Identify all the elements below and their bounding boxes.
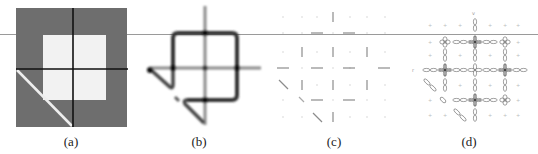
svg-text:v: v bbox=[472, 10, 475, 16]
caption-b: (b) bbox=[179, 134, 219, 150]
panel-a bbox=[0, 0, 135, 134]
svg-text:+: + bbox=[516, 112, 520, 118]
svg-text:+: + bbox=[503, 112, 507, 118]
svg-text:+: + bbox=[488, 52, 492, 58]
oriented-segment-grid bbox=[270, 0, 405, 134]
svg-text:+: + bbox=[516, 52, 520, 58]
caption-a: (a) bbox=[51, 134, 91, 150]
svg-text:+: + bbox=[428, 52, 432, 58]
caption-d: (d) bbox=[449, 134, 489, 150]
svg-text:r: r bbox=[412, 67, 415, 73]
svg-text:+: + bbox=[428, 112, 432, 118]
svg-text:+: + bbox=[458, 52, 462, 58]
svg-text:+: + bbox=[458, 22, 462, 28]
svg-text:+: + bbox=[516, 82, 520, 88]
svg-text:+: + bbox=[443, 22, 447, 28]
svg-text:+: + bbox=[428, 97, 432, 103]
orientation-glyph-grid: ++++++ ++ ++++ +++ ++ +++++ v r bbox=[400, 0, 538, 134]
svg-text:+: + bbox=[516, 22, 520, 28]
svg-text:+: + bbox=[503, 22, 507, 28]
svg-text:+: + bbox=[458, 82, 462, 88]
svg-text:+: + bbox=[443, 112, 447, 118]
svg-text:+: + bbox=[428, 39, 432, 45]
svg-text:+: + bbox=[488, 82, 492, 88]
blurred-response-map bbox=[147, 6, 261, 125]
svg-text:+: + bbox=[488, 22, 492, 28]
caption-c: (c) bbox=[314, 134, 354, 150]
svg-text:+: + bbox=[516, 97, 520, 103]
svg-text:+: + bbox=[428, 22, 432, 28]
svg-text:+: + bbox=[488, 112, 492, 118]
panel-b bbox=[135, 0, 270, 134]
svg-text:+: + bbox=[516, 39, 520, 45]
panel-d: ++++++ ++ ++++ +++ ++ +++++ v r bbox=[400, 0, 538, 134]
panel-c bbox=[270, 0, 405, 134]
white-inner-square bbox=[43, 35, 106, 100]
